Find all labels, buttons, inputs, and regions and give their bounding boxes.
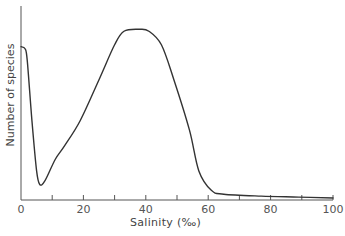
species-curve	[21, 29, 333, 198]
y-axis-label: Number of species	[4, 67, 17, 147]
x-tick-label: 0	[18, 203, 25, 216]
x-tick-label: 20	[76, 203, 90, 216]
x-tick-label: 40	[139, 203, 153, 216]
x-tick-label: 60	[201, 203, 215, 216]
x-tick-label: 80	[264, 203, 278, 216]
species-salinity-chart	[0, 0, 345, 236]
x-axis-label: Salinity (‰)	[130, 216, 201, 229]
x-tick-label: 100	[323, 203, 344, 216]
